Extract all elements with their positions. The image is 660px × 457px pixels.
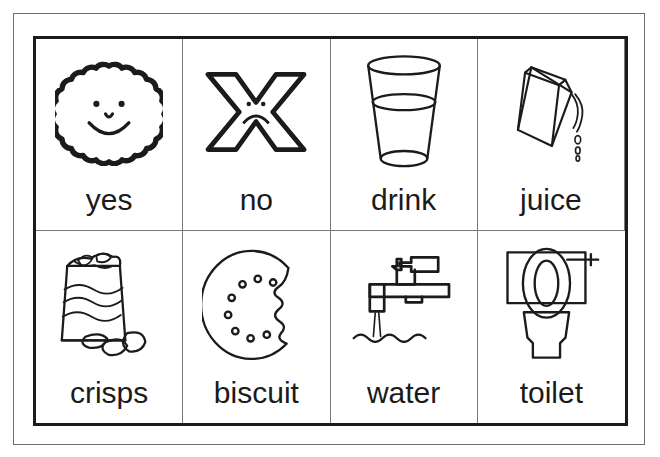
symbol-label: crisps [70, 378, 148, 417]
symbol-cell-biscuit[interactable]: biscuit [183, 231, 330, 423]
symbol-cell-no[interactable]: no [183, 39, 330, 231]
symbol-cell-drink[interactable]: drink [331, 39, 478, 231]
symbol-label: drink [371, 185, 436, 224]
glass-of-drink-icon [331, 39, 477, 185]
toilet-icon [478, 231, 625, 378]
bitten-biscuit-icon [183, 231, 329, 378]
crisps-packet-icon [36, 231, 182, 378]
symbol-label: yes [86, 185, 133, 224]
symbol-label: no [240, 185, 273, 224]
symbol-label: juice [520, 185, 582, 224]
symbol-cell-crisps[interactable]: crisps [36, 231, 183, 423]
running-tap-icon [331, 231, 477, 378]
symbol-cell-water[interactable]: water [331, 231, 478, 423]
symbol-cell-yes[interactable]: yes [36, 39, 183, 231]
symbol-label: biscuit [214, 378, 299, 417]
x-sad-face-icon [183, 39, 329, 185]
scalloped-smiley-face-icon [36, 39, 182, 185]
symbol-grid: yes no drink [33, 36, 628, 426]
symbol-cell-toilet[interactable]: toilet [478, 231, 625, 423]
symbol-cell-juice[interactable]: juice [478, 39, 625, 231]
symbol-label: toilet [520, 378, 583, 417]
pouring-juice-carton-icon [478, 39, 624, 185]
symbol-label: water [367, 378, 440, 417]
